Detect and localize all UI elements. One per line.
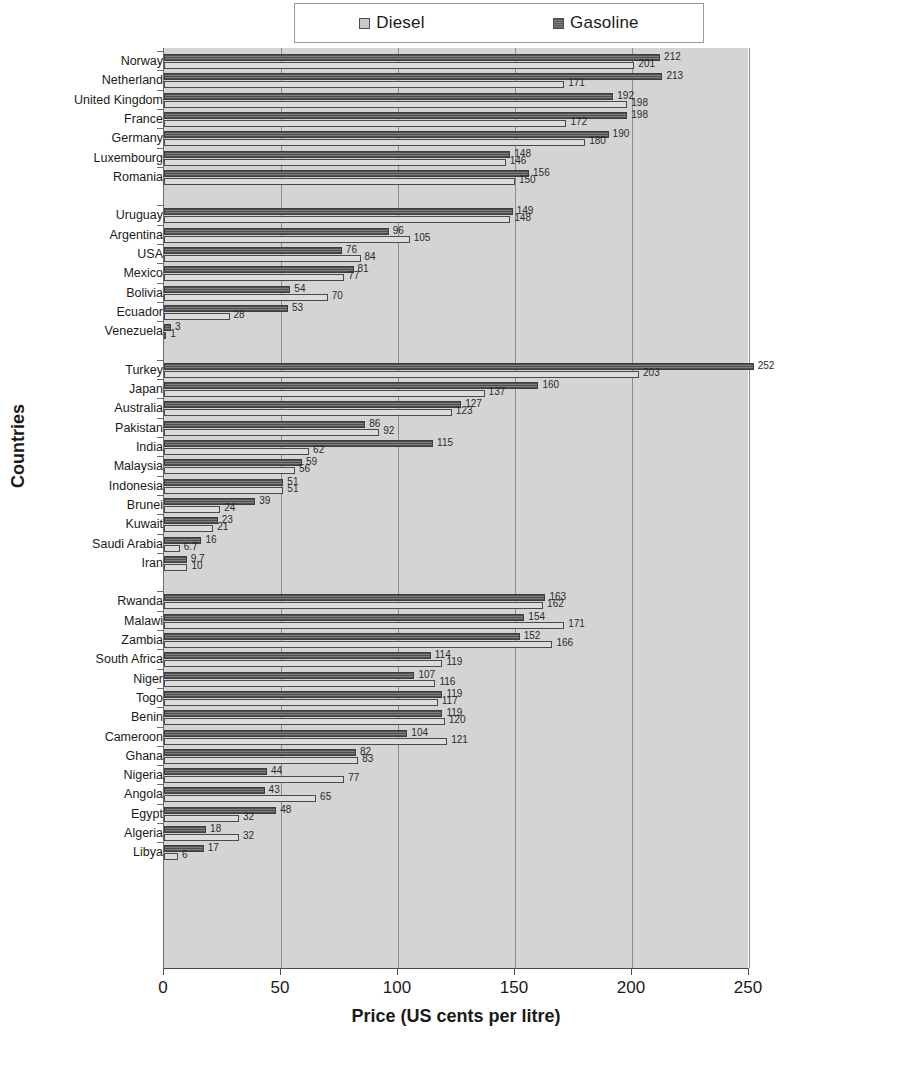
bar-gasoline[interactable]: [164, 421, 365, 428]
bar-value-label-gasoline: 54: [294, 284, 305, 294]
bar-value-label-diesel: 198: [631, 98, 648, 108]
bar-gasoline[interactable]: [164, 517, 218, 524]
bar-diesel[interactable]: [164, 409, 452, 416]
bar-diesel[interactable]: [164, 564, 187, 571]
x-axis-tick: [397, 968, 398, 975]
x-axis-tick: [163, 968, 164, 975]
bar-diesel[interactable]: [164, 757, 358, 764]
bar-diesel[interactable]: [164, 294, 328, 301]
bar-gasoline[interactable]: [164, 170, 529, 177]
bar-gasoline[interactable]: [164, 131, 609, 138]
bar-value-label-diesel: 166: [556, 638, 573, 648]
bar-gasoline[interactable]: [164, 151, 510, 158]
bar-value-label-diesel: 146: [510, 156, 527, 166]
bar-gasoline[interactable]: [164, 768, 267, 775]
bar-gasoline[interactable]: [164, 93, 613, 100]
bar-gasoline[interactable]: [164, 208, 513, 215]
bar-gasoline[interactable]: [164, 73, 662, 80]
bar-gasoline[interactable]: [164, 401, 461, 408]
bar-diesel[interactable]: [164, 487, 283, 494]
y-axis-category-label: Zambia: [8, 634, 163, 646]
bar-diesel[interactable]: [164, 216, 510, 223]
y-axis-category-label: Angola: [8, 788, 163, 800]
y-axis-category-label: Nigeria: [8, 769, 163, 781]
bar-gasoline[interactable]: [164, 286, 290, 293]
bar-diesel[interactable]: [164, 641, 552, 648]
bar-gasoline[interactable]: [164, 247, 342, 254]
bar-gasoline[interactable]: [164, 672, 414, 679]
bar-diesel[interactable]: [164, 699, 438, 706]
bar-diesel[interactable]: [164, 834, 239, 841]
legend-entry-diesel[interactable]: Diesel: [359, 13, 424, 33]
bar-diesel[interactable]: [164, 101, 627, 108]
bar-diesel[interactable]: [164, 62, 634, 69]
bar-diesel[interactable]: [164, 545, 180, 552]
bar-gasoline[interactable]: [164, 652, 431, 659]
bar-gasoline[interactable]: [164, 228, 389, 235]
bar-value-label-diesel: 84: [365, 252, 376, 262]
bar-diesel[interactable]: [164, 313, 230, 320]
bar-diesel[interactable]: [164, 680, 435, 687]
bar-value-label-gasoline: 252: [758, 361, 775, 371]
bar-diesel[interactable]: [164, 448, 309, 455]
bar-diesel[interactable]: [164, 853, 178, 860]
bar-diesel[interactable]: [164, 274, 344, 281]
legend-label-gasoline: Gasoline: [570, 13, 639, 33]
bar-gasoline[interactable]: [164, 691, 442, 698]
bar-gasoline[interactable]: [164, 440, 433, 447]
bar-diesel[interactable]: [164, 795, 316, 802]
bar-gasoline[interactable]: [164, 266, 354, 273]
bar-diesel[interactable]: [164, 467, 295, 474]
bar-diesel[interactable]: [164, 332, 166, 339]
bar-diesel[interactable]: [164, 718, 445, 725]
bar-gasoline[interactable]: [164, 787, 265, 794]
bar-diesel[interactable]: [164, 776, 344, 783]
bar-value-label-diesel: 172: [570, 117, 587, 127]
bar-diesel[interactable]: [164, 255, 361, 262]
legend-entry-gasoline[interactable]: Gasoline: [553, 13, 639, 33]
bar-value-label-gasoline: 96: [393, 226, 404, 236]
bar-diesel[interactable]: [164, 738, 447, 745]
bar-gasoline[interactable]: [164, 633, 520, 640]
bar-diesel[interactable]: [164, 390, 485, 397]
y-axis-category-label: Malaysia: [8, 460, 163, 472]
bar-diesel[interactable]: [164, 506, 220, 513]
bar-gasoline[interactable]: [164, 749, 356, 756]
bar-gasoline[interactable]: [164, 363, 754, 370]
bar-gasoline[interactable]: [164, 730, 407, 737]
bar-diesel[interactable]: [164, 371, 639, 378]
bar-value-label-diesel: 51: [287, 484, 298, 494]
bar-value-label-diesel: 162: [547, 599, 564, 609]
bar-diesel[interactable]: [164, 139, 585, 146]
bar-diesel[interactable]: [164, 525, 213, 532]
y-axis-category-label: Netherland: [8, 74, 163, 86]
bar-diesel[interactable]: [164, 660, 442, 667]
bar-gasoline[interactable]: [164, 498, 255, 505]
bar-diesel[interactable]: [164, 429, 379, 436]
bar-diesel[interactable]: [164, 622, 564, 629]
bar-diesel[interactable]: [164, 81, 564, 88]
bar-gasoline[interactable]: [164, 614, 524, 621]
bar-value-label-diesel: 70: [332, 291, 343, 301]
bar-diesel[interactable]: [164, 159, 506, 166]
bar-diesel[interactable]: [164, 236, 410, 243]
bar-gasoline[interactable]: [164, 479, 283, 486]
bar-gasoline[interactable]: [164, 807, 276, 814]
bar-gasoline[interactable]: [164, 710, 442, 717]
bar-gasoline[interactable]: [164, 305, 288, 312]
gridline: [398, 48, 399, 968]
bar-gasoline[interactable]: [164, 382, 538, 389]
bar-gasoline[interactable]: [164, 826, 206, 833]
bar-value-label-gasoline: 48: [280, 805, 291, 815]
bar-diesel[interactable]: [164, 602, 543, 609]
bar-gasoline[interactable]: [164, 556, 187, 563]
bar-gasoline[interactable]: [164, 594, 545, 601]
bar-gasoline[interactable]: [164, 54, 660, 61]
y-axis-category-label: Argentina: [8, 229, 163, 241]
bar-value-label-gasoline: 198: [631, 110, 648, 120]
bar-gasoline[interactable]: [164, 459, 302, 466]
bar-gasoline[interactable]: [164, 112, 627, 119]
bar-diesel[interactable]: [164, 178, 515, 185]
bar-diesel[interactable]: [164, 815, 239, 822]
bar-diesel[interactable]: [164, 120, 566, 127]
